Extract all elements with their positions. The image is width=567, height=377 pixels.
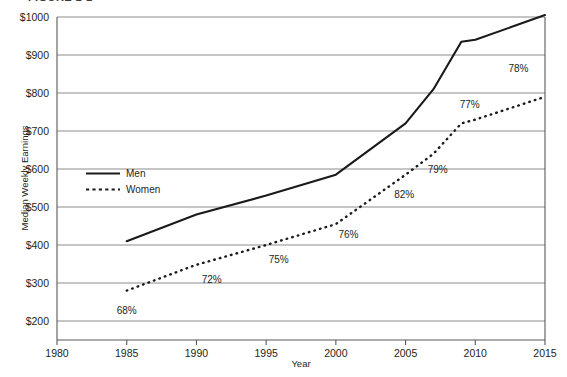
y-axis-tick-label: $900 [26, 49, 50, 61]
x-axis-tick-label: 2005 [394, 347, 418, 359]
y-axis-tick-label: $1000 [20, 11, 49, 23]
y-axis-tick-label: $300 [26, 277, 50, 289]
percent-annotation: 78% [509, 63, 529, 74]
percent-annotations: 68%72%75%76%82%79%77%78% [117, 63, 529, 316]
legend-label-women: Women [126, 184, 160, 195]
y-axis-tick-label: $800 [26, 87, 50, 99]
y-axis-title: Median Weekly Earnings [19, 125, 30, 230]
line-chart: $200$300$400$500$600$700$800$900$1000 19… [0, 0, 567, 377]
percent-annotation: 75% [269, 254, 289, 265]
x-axis-tick-label: 2010 [464, 347, 488, 359]
x-axis-ticks [57, 340, 545, 345]
percent-annotation: 76% [338, 229, 358, 240]
percent-annotation: 79% [428, 164, 448, 175]
x-axis-tick-label: 1980 [45, 347, 69, 359]
y-axis-tick-label: $200 [26, 315, 50, 327]
x-axis-tick-label: 1995 [254, 347, 278, 359]
percent-annotation: 77% [460, 99, 480, 110]
percent-annotation: 68% [117, 305, 137, 316]
x-axis-tick-label: 1985 [115, 347, 139, 359]
x-axis-tick-label: 2000 [324, 347, 348, 359]
y-axis-tick-label: $400 [26, 239, 50, 251]
x-axis-tick-label: 1990 [185, 347, 209, 359]
percent-annotation: 82% [394, 189, 414, 200]
x-axis-tick-label: 2015 [533, 347, 557, 359]
chart-legend: Men Women [86, 168, 160, 195]
figure-root: FIGURE 1-1 $200$300$400$500$600$700$800$… [0, 0, 567, 377]
series-line-women [127, 97, 545, 291]
legend-label-men: Men [126, 168, 145, 179]
x-axis-title: Year [291, 358, 310, 369]
percent-annotation: 72% [202, 274, 222, 285]
